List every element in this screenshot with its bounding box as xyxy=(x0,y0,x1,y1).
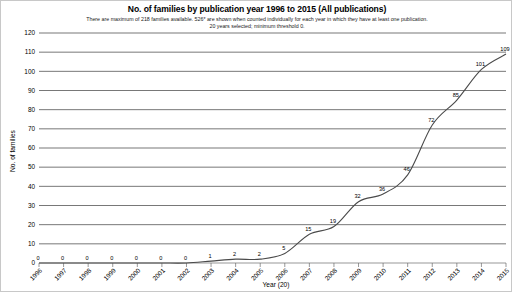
y-axis-tick-label: 0 xyxy=(31,259,35,266)
y-axis-tick-label: 90 xyxy=(28,87,36,94)
data-point-label: 36 xyxy=(379,186,385,192)
x-axis-tick-label: 1996 xyxy=(28,266,43,281)
data-point-label: 72 xyxy=(428,117,434,123)
x-axis-tick-label: 2009 xyxy=(348,266,363,281)
x-axis-tick-label: 2005 xyxy=(249,266,264,281)
x-axis-tick-label: 2000 xyxy=(127,266,142,281)
data-point-labels: 0000000122515193236467285101109 xyxy=(36,46,509,261)
y-axis-tick-label: 110 xyxy=(25,48,36,55)
x-axis-tick-label: 2001 xyxy=(151,266,166,281)
data-point-label: 0 xyxy=(36,255,39,261)
data-point-label: 0 xyxy=(159,255,162,261)
x-axis-title: Year (20) xyxy=(263,281,290,289)
x-axis-tick-label: 2013 xyxy=(446,266,461,281)
y-axis-tick-label: 100 xyxy=(24,68,35,75)
y-axis-tick-labels: 0102030405060708090100110120 xyxy=(24,29,35,266)
x-axis-tick-label: 2011 xyxy=(397,266,412,281)
data-point-label: 2 xyxy=(233,251,236,257)
x-axis-tick-label: 2012 xyxy=(421,266,436,281)
data-point-label: 85 xyxy=(453,92,459,98)
x-axis-tick-label: 2010 xyxy=(372,266,387,281)
data-point-label: 0 xyxy=(86,255,89,261)
x-axis-tick-labels: 1996199719981999200020012002200320042005… xyxy=(28,266,510,281)
data-point-label: 2 xyxy=(258,251,261,257)
x-axis xyxy=(39,263,506,267)
chart-plot-area: 0102030405060708090100110120 19961997199… xyxy=(1,1,512,292)
x-axis-tick-label: 1998 xyxy=(77,266,92,281)
data-point-label: 32 xyxy=(354,193,360,199)
y-axis-tick-label: 70 xyxy=(28,125,36,132)
data-series-line xyxy=(39,54,506,263)
x-axis-tick-label: 2008 xyxy=(323,266,338,281)
y-axis-tick-label: 50 xyxy=(28,163,36,170)
x-axis-tick-label: 2003 xyxy=(200,266,215,281)
data-point-label: 0 xyxy=(184,255,187,261)
data-point-label: 15 xyxy=(305,226,311,232)
y-axis-tick-label: 40 xyxy=(28,183,36,190)
x-axis-tick-label: 2007 xyxy=(299,266,314,281)
y-axis-title: No. of families xyxy=(9,129,16,171)
data-point-label: 46 xyxy=(404,166,410,172)
data-point-label: 109 xyxy=(500,46,509,52)
y-axis-tick-label: 10 xyxy=(28,240,36,247)
data-point-label: 19 xyxy=(330,218,336,224)
y-axis-tick-label: 120 xyxy=(24,29,35,36)
x-axis-tick-label: 1999 xyxy=(102,266,117,281)
x-axis-tick-label: 2004 xyxy=(225,266,240,281)
chart-container: No. of families by publication year 1996… xyxy=(0,0,512,292)
data-point-label: 101 xyxy=(476,61,485,67)
x-axis-tick-label: 2014 xyxy=(471,266,486,281)
data-point-label: 0 xyxy=(110,255,113,261)
y-axis-tick-label: 80 xyxy=(28,106,36,113)
y-axis-tick-label: 30 xyxy=(28,202,36,209)
data-point-label: 5 xyxy=(282,245,285,251)
x-axis-tick-label: 2006 xyxy=(274,266,289,281)
x-axis-tick-label: 1997 xyxy=(53,266,68,281)
data-point-label: 0 xyxy=(135,255,138,261)
data-point-label: 0 xyxy=(61,255,64,261)
y-axis-tick-label: 20 xyxy=(28,221,36,228)
y-axis-tick-label: 60 xyxy=(28,144,36,151)
series-path xyxy=(39,54,506,263)
data-point-label: 1 xyxy=(208,253,211,259)
x-axis-tick-label: 2015 xyxy=(495,266,510,281)
x-axis-tick-label: 2002 xyxy=(176,266,191,281)
gridlines xyxy=(39,33,506,263)
